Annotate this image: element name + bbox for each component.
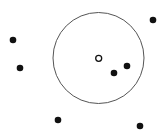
- point-outside-radius: [17, 65, 24, 72]
- diagram-canvas: [0, 0, 166, 133]
- point-outside-radius: [150, 17, 157, 24]
- data-points: [10, 17, 157, 130]
- neighborhood-diagram: [0, 0, 166, 133]
- point-outside-radius: [137, 123, 144, 130]
- point-outside-radius: [55, 117, 62, 124]
- point-inside-radius: [124, 63, 131, 70]
- query-point: [96, 55, 102, 61]
- point-outside-radius: [10, 37, 17, 44]
- point-inside-radius: [111, 70, 118, 77]
